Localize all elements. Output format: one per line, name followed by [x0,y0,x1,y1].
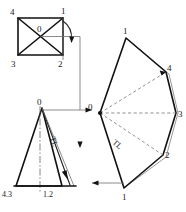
top-view-label-4: 4 [10,7,15,17]
top-view-label-1: 1 [61,6,66,16]
development-apex-dot [98,111,102,115]
development-label-2: 2 [165,150,170,160]
technical-drawing-canvas: 4 1 3 2 0 0 4.3 1.2 TL [0,0,186,212]
top-view-label-0: 0 [37,24,42,34]
development-label-3: 3 [178,109,183,119]
top-view-label-2: 2 [58,59,63,69]
development-label-0: 0 [88,102,93,112]
development-label-4: 4 [167,63,172,73]
drawing-background [0,0,186,212]
front-view-label-1-2: 1.2 [43,190,53,199]
development-label-1-top: 1 [123,26,128,36]
top-view-label-3: 3 [11,59,16,69]
front-view-label-0: 0 [37,97,42,107]
front-view-label-4-3: 4.3 [2,190,12,199]
development-label-1-bottom: 1 [122,192,127,202]
